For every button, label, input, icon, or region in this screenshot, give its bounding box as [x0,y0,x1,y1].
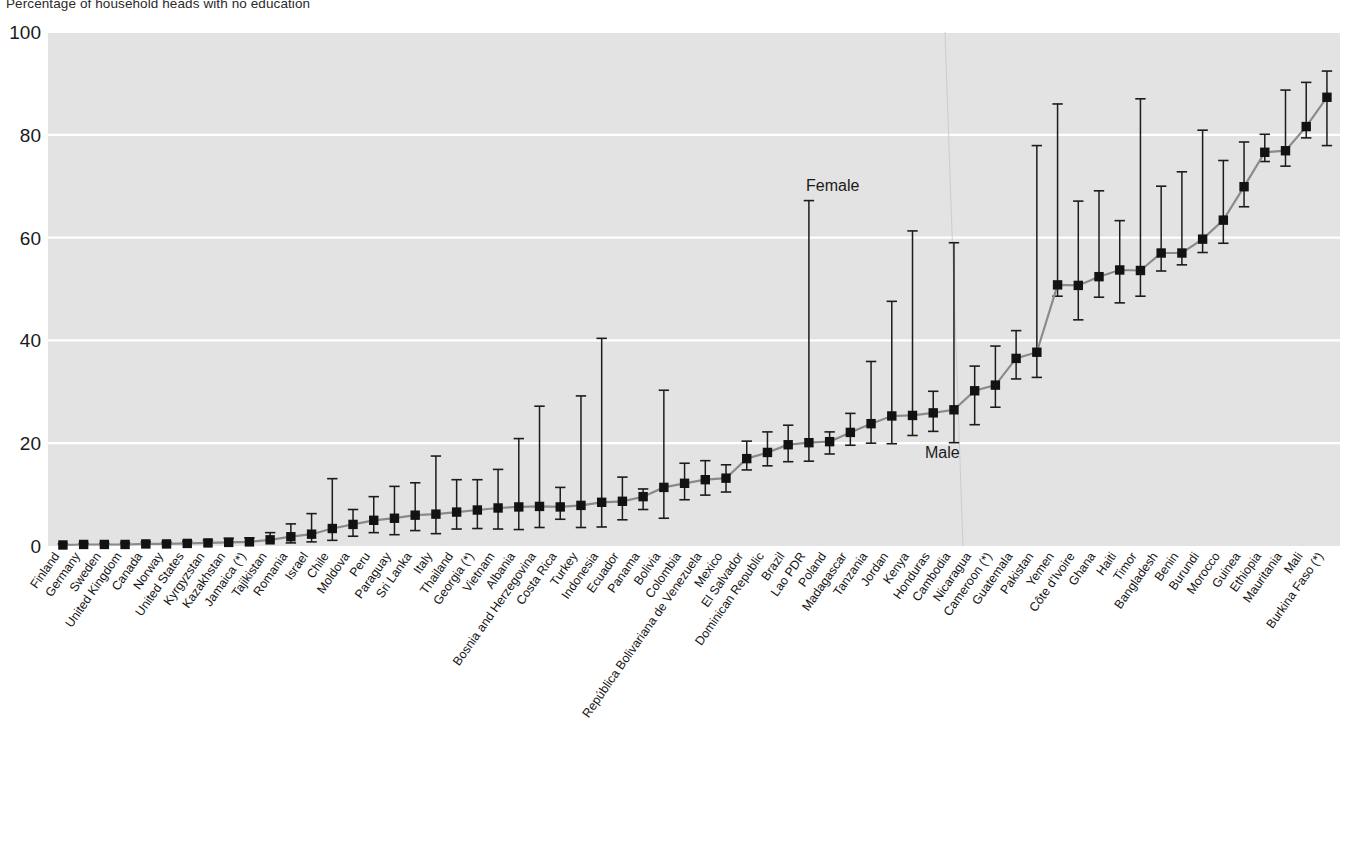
data-point-marker [514,502,523,511]
data-point-marker [1136,266,1145,275]
data-point-marker [58,540,67,549]
data-point-marker [265,535,274,544]
data-point-marker [866,419,875,428]
data-point-marker [701,475,710,484]
data-point-marker [1115,265,1124,274]
data-point-marker [804,438,813,447]
data-point-marker [1219,215,1228,224]
data-point-marker [1281,146,1290,155]
data-point-marker [328,524,337,533]
data-point-marker [721,473,730,482]
data-point-marker [659,483,668,492]
data-point-marker [79,540,88,549]
chart-container: 020406080100 FinlandGermanySwedenUnited … [0,0,1354,848]
data-point-marker [307,529,316,538]
data-point-marker [763,448,772,457]
data-point-marker [576,501,585,510]
data-point-marker [825,437,834,446]
male-series-label: Male [925,444,960,461]
data-point-marker [1322,93,1331,102]
data-point-marker [991,380,1000,389]
data-point-marker [100,540,109,549]
chart-svg: 020406080100 FinlandGermanySwedenUnited … [0,0,1354,848]
data-point-marker [556,502,565,511]
y-tick-label: 80 [20,125,41,146]
data-point-marker [1260,148,1269,157]
data-point-marker [141,539,150,548]
data-point-marker [348,520,357,529]
data-point-marker [783,440,792,449]
data-point-marker [638,492,647,501]
x-tick-label: Israel [282,550,311,583]
data-point-marker [183,539,192,548]
chart-page: Percentage of household heads with no ed… [0,0,1354,848]
data-point-marker [742,454,751,463]
data-point-marker [597,498,606,507]
data-point-marker [452,507,461,516]
data-point-marker [369,516,378,525]
y-axis-ticks: 020406080100 [9,22,41,557]
data-point-marker [224,538,233,547]
data-point-marker [929,408,938,417]
y-tick-label: 0 [30,536,41,557]
data-point-marker [120,540,129,549]
data-point-marker [203,538,212,547]
data-point-marker [1239,182,1248,191]
data-point-marker [390,514,399,523]
data-point-marker [949,405,958,414]
data-point-marker [493,503,502,512]
data-point-marker [286,532,295,541]
data-point-marker [846,428,855,437]
female-series-label: Female [806,177,859,194]
x-axis-labels: FinlandGermanySwedenUnited KingdomCanada… [28,549,1327,720]
data-point-marker [1198,234,1207,243]
data-point-marker [410,510,419,519]
data-point-marker [1302,122,1311,131]
data-point-marker [431,509,440,518]
data-point-marker [1156,248,1165,257]
y-tick-label: 40 [20,330,41,351]
data-point-marker [1094,272,1103,281]
data-point-marker [162,539,171,548]
data-point-marker [618,497,627,506]
data-point-marker [970,386,979,395]
data-point-marker [245,537,254,546]
y-tick-label: 60 [20,228,41,249]
data-point-marker [887,411,896,420]
data-point-marker [1177,248,1186,257]
data-point-marker [1011,354,1020,363]
y-tick-label: 20 [20,433,41,454]
data-point-marker [1074,281,1083,290]
data-point-marker [473,505,482,514]
data-point-marker [680,479,689,488]
data-point-marker [535,502,544,511]
plot-background [48,32,1340,546]
y-tick-label: 100 [9,22,41,43]
data-point-marker [1053,280,1062,289]
data-point-marker [908,411,917,420]
data-point-marker [1032,348,1041,357]
